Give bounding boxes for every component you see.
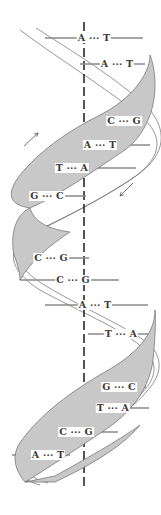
- base-pair-label: T ··· A: [55, 163, 89, 173]
- base-pair-label: C ··· G: [106, 116, 142, 126]
- dna-double-helix-diagram: A ··· TA ··· TC ··· GA ··· TT ··· AG ···…: [0, 0, 161, 515]
- base-pair-label: A ··· T: [77, 33, 111, 43]
- base-pair-label: G ··· C: [101, 382, 137, 392]
- base-pair-label: T ··· A: [104, 329, 138, 339]
- base-pair-label: C ··· G: [58, 427, 94, 437]
- base-pair-label: A ··· T: [100, 59, 134, 69]
- base-pair-label: A ··· T: [83, 140, 117, 150]
- strand-direction-up-arrow-icon: [24, 133, 38, 146]
- base-pair-label: G ··· C: [29, 191, 65, 201]
- base-pair-label: A ··· T: [78, 300, 112, 310]
- helix-graphic: [0, 0, 161, 515]
- base-pair-label: C ··· G: [33, 253, 69, 263]
- base-pair-label: A ··· T: [31, 450, 65, 460]
- base-pair-label: C ··· G: [55, 275, 91, 285]
- base-pair-label: T ··· A: [96, 403, 130, 413]
